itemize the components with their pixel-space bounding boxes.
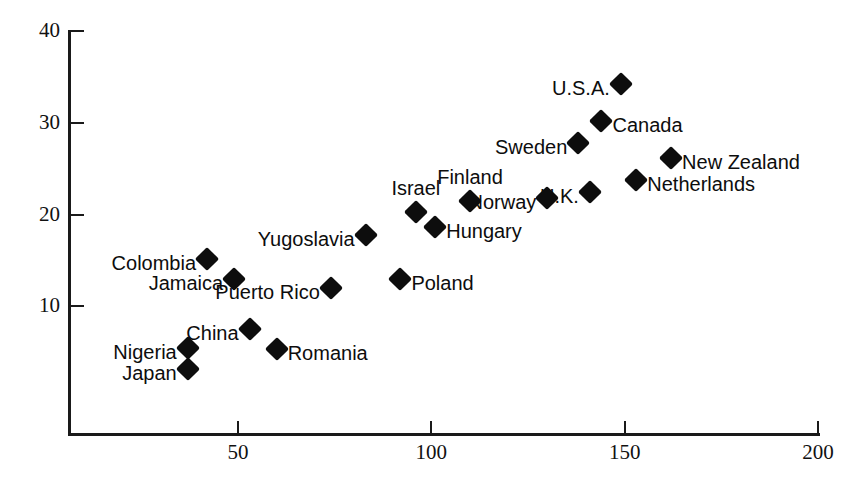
data-point-marker[interactable] [624, 168, 648, 192]
data-point-marker[interactable] [176, 357, 200, 381]
data-point-label: Nigeria [113, 342, 176, 362]
y-tick-30 [71, 122, 84, 124]
data-point-label: U.S.A. [552, 78, 610, 98]
data-point-marker[interactable] [388, 267, 412, 291]
data-point-marker[interactable] [195, 247, 219, 271]
data-point-marker[interactable] [609, 72, 633, 96]
x-tick-label-100: 100 [401, 440, 461, 465]
data-point-marker[interactable] [238, 317, 262, 341]
data-point-marker[interactable] [404, 200, 428, 224]
data-point-marker[interactable] [423, 215, 447, 239]
y-tick-40 [71, 30, 84, 32]
data-point-marker[interactable] [319, 276, 343, 300]
data-point-label: China [186, 323, 238, 343]
x-tick-label-50: 50 [208, 440, 268, 465]
x-tick-label-150: 150 [595, 440, 655, 465]
data-point-marker[interactable] [589, 109, 613, 133]
data-point-label: Romania [288, 343, 368, 363]
y-tick-label-20: 20 [14, 202, 60, 227]
data-point-label: Israel [391, 178, 440, 198]
y-axis-line [68, 30, 71, 435]
x-tick-150 [624, 421, 626, 434]
data-point-marker[interactable] [659, 146, 683, 170]
y-tick-10 [71, 305, 84, 307]
data-point-label: Japan [122, 363, 177, 383]
data-point-label: Netherlands [647, 174, 755, 194]
data-point-label: Puerto Rico [215, 282, 320, 302]
data-point-label: Canada [612, 115, 682, 135]
y-tick-20 [71, 214, 84, 216]
data-point-marker[interactable] [578, 180, 602, 204]
data-point-label: Jamaica [149, 273, 223, 293]
data-point-marker[interactable] [566, 131, 590, 155]
data-point-label: U.K. [540, 186, 579, 206]
data-point-label: Finland [437, 167, 503, 187]
y-tick-label-40: 40 [14, 18, 60, 43]
data-point-label: Norway [469, 192, 537, 212]
x-tick-100 [430, 421, 432, 434]
data-point-label: New Zealand [682, 152, 800, 172]
x-tick-label-200: 200 [788, 440, 848, 465]
data-point-label: Hungary [446, 221, 522, 241]
scatter-plot-figure: 10203040 50100150200 JapanNigeriaChinaRo… [0, 0, 858, 485]
data-point-label: Poland [411, 273, 473, 293]
data-point-marker[interactable] [354, 223, 378, 247]
data-point-label: Colombia [112, 253, 196, 273]
x-tick-200 [817, 421, 819, 434]
data-point-marker[interactable] [265, 337, 289, 361]
x-axis-line [68, 433, 820, 436]
y-tick-label-10: 10 [14, 293, 60, 318]
data-point-label: Yugoslavia [258, 229, 355, 249]
data-point-label: Sweden [495, 137, 567, 157]
y-tick-label-30: 30 [14, 110, 60, 135]
x-tick-50 [237, 421, 239, 434]
